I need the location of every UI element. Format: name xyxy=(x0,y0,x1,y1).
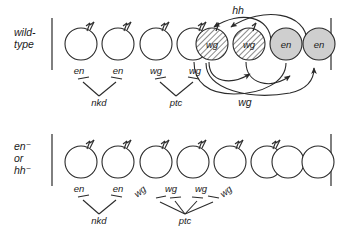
repressor-label-ptc: ptc xyxy=(169,97,183,108)
cell-outline xyxy=(102,28,134,60)
gene-label-wg-4: wg xyxy=(195,183,208,194)
cell-outline xyxy=(302,146,334,178)
cell-gene-label: wg xyxy=(206,39,219,50)
cell-outline xyxy=(140,146,172,178)
cell-outline xyxy=(65,28,97,60)
cell-outline xyxy=(272,146,304,178)
gene-label-wg-3: wg xyxy=(165,183,178,194)
gene-label-en-0: en xyxy=(74,183,85,194)
gene-label-en-1: en xyxy=(113,183,124,194)
gene-label-wg-2: wg xyxy=(150,65,163,76)
segment-polarity-diagram: wild- type hh xyxy=(0,0,343,229)
diagram-canvas: wild- type hh xyxy=(0,0,343,229)
cell-mutant-7 xyxy=(302,146,334,178)
gene-label-en-0: en xyxy=(74,65,85,76)
hh-arc-label: hh xyxy=(232,4,244,16)
cell-gene-label: wg xyxy=(243,39,256,50)
row-label-mutant-line1: en⁻ xyxy=(14,140,31,152)
cell-wild-type-6-en: en xyxy=(270,28,302,60)
repressor-label-ptc: ptc xyxy=(178,215,192,226)
cell-outline xyxy=(177,146,209,178)
cell-mutant-6 xyxy=(272,146,304,178)
gene-label-wg-3: wg xyxy=(189,65,202,76)
gene-label-en-1: en xyxy=(113,65,124,76)
row-label-mutant-line3: hh⁻ xyxy=(14,164,31,176)
cell-gene-label: en xyxy=(281,39,292,50)
cell-outline xyxy=(65,146,97,178)
repressor-label-nkd: nkd xyxy=(91,215,107,226)
cell-gene-label: en xyxy=(314,39,325,50)
cell-outline xyxy=(214,146,246,178)
row-label-wild-type-line2: type xyxy=(14,38,34,50)
cell-outline xyxy=(102,146,134,178)
wg-arc-label: wg xyxy=(238,96,252,108)
row-label-wild-type-line1: wild- xyxy=(14,26,36,38)
cell-outline xyxy=(140,28,172,60)
cell-wild-type-7-en: en xyxy=(303,28,335,60)
repressor-label-nkd: nkd xyxy=(91,97,107,108)
row-label-mutant-line2: or xyxy=(14,152,24,164)
